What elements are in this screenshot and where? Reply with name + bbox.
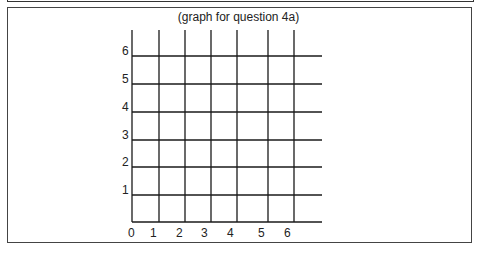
x-label-5: 5 xyxy=(258,226,265,240)
y-label-1: 1 xyxy=(122,183,129,197)
x-label-0: 0 xyxy=(128,226,135,240)
x-label-1: 1 xyxy=(150,226,157,240)
y-label-2: 2 xyxy=(122,155,129,169)
x-label-4: 4 xyxy=(227,226,234,240)
y-label-5: 5 xyxy=(122,72,129,86)
graph-grid xyxy=(0,0,477,254)
x-label-6: 6 xyxy=(284,226,291,240)
x-label-3: 3 xyxy=(201,226,208,240)
x-label-2: 2 xyxy=(176,226,183,240)
y-label-4: 4 xyxy=(122,100,129,114)
y-label-3: 3 xyxy=(122,128,129,142)
y-label-6: 6 xyxy=(122,44,129,58)
